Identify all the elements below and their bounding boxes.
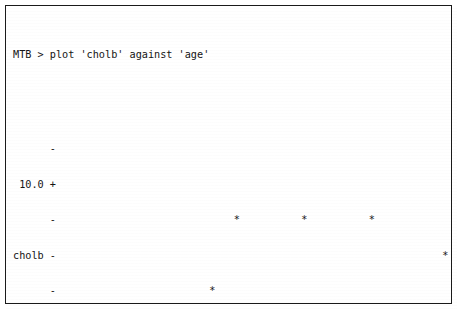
plot-row-2: - * * * — [13, 214, 451, 226]
console-output-area: MTB > plot 'cholb' against 'age' - 10.0 … — [6, 6, 451, 303]
plot-row-4: - * — [13, 285, 451, 297]
plot-row-1: 10.0 + — [13, 179, 451, 191]
plot-row-3: cholb - * — [13, 250, 451, 262]
spacer-line-1 — [13, 96, 451, 108]
minitab-session-window: MTB > plot 'cholb' against 'age' - 10.0 … — [5, 5, 452, 304]
command-prompt-line[interactable]: MTB > plot 'cholb' against 'age' — [13, 49, 451, 61]
plot-row-0: - — [13, 143, 451, 155]
